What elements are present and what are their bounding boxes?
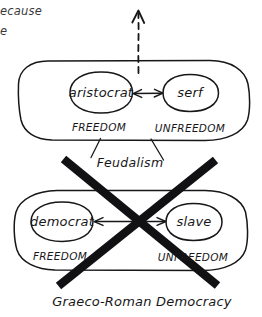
- group-caption-feudalism: Feudalism: [97, 157, 164, 170]
- node-label-serf: serf: [177, 86, 203, 99]
- group-caption-graeco-roman-democracy: Graeco-Roman Democracy: [52, 295, 232, 308]
- diagram-canvas: ecause e aristocrat FREEDOM serf UNFREED…: [0, 0, 262, 317]
- state-label-unfreedom-democracy: UNFREEDOM: [158, 252, 228, 263]
- node-label-aristocrat: aristocrat: [69, 86, 133, 99]
- node-label-democrat: democrat: [30, 215, 94, 228]
- upward-dashed-arrow-icon: [132, 11, 144, 74]
- state-label-freedom-feudalism: FREEDOM: [72, 122, 126, 133]
- aristocrat-serf-connector: [133, 89, 163, 97]
- margin-note-line-2: e: [0, 26, 7, 38]
- state-label-unfreedom-feudalism: UNFREEDOM: [155, 123, 225, 134]
- margin-note-line-1: ecause: [0, 6, 42, 18]
- node-label-slave: slave: [176, 215, 211, 228]
- state-label-freedom-democracy: FREEDOM: [33, 251, 87, 262]
